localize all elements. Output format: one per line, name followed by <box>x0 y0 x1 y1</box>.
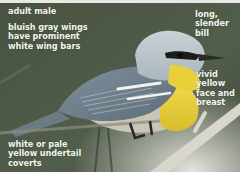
label-adult-male: adult male <box>8 7 56 16</box>
label-undertail: white or pale yellow undertail coverts <box>8 140 81 168</box>
label-bill: long, slender bill <box>195 10 229 38</box>
label-face-breast: vivid yellow face and breast <box>196 70 235 108</box>
label-wings: bluish gray wings have prominent white w… <box>8 23 87 51</box>
bird-photo: adult male bluish gray wings have promin… <box>0 3 240 172</box>
bird-figure: adult male bluish gray wings have promin… <box>0 0 240 172</box>
